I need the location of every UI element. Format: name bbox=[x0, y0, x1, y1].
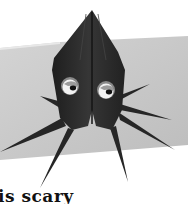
eye-right bbox=[97, 81, 115, 99]
caption-text: is scary bbox=[0, 186, 74, 204]
eye-left bbox=[61, 77, 79, 95]
origami-octopus-photo bbox=[0, 0, 188, 204]
octopus-head bbox=[52, 10, 125, 130]
